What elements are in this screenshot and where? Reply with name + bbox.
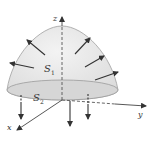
z-axis-label: z bbox=[52, 14, 58, 23]
y-axis-label: y bbox=[137, 110, 143, 119]
x-axis-label: x bbox=[7, 123, 12, 132]
paraboloid-diagram: z y x S 1 S 2 bbox=[0, 0, 155, 144]
surface-s2 bbox=[7, 80, 118, 100]
y-axis bbox=[115, 104, 146, 106]
s2-label: S bbox=[33, 92, 40, 103]
s1-subscript: 1 bbox=[51, 69, 55, 76]
s2-subscript: 2 bbox=[40, 98, 44, 105]
diagram-canvas: z y x S 1 S 2 bbox=[0, 0, 155, 144]
s1-label: S bbox=[44, 63, 51, 74]
